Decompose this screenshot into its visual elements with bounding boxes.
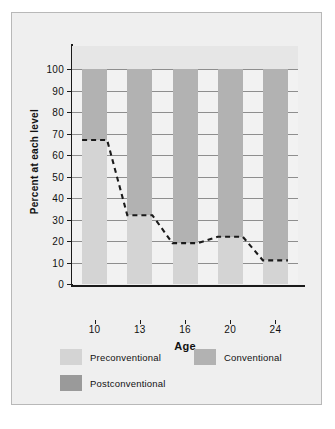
bar-segment-preconventional-age-16 <box>173 243 198 284</box>
legend-row-1: Preconventional Conventional <box>60 349 305 375</box>
x-tick-label-20: 20 <box>224 324 236 335</box>
legend-swatch-conventional <box>194 349 216 365</box>
y-tick-mark-30 <box>67 220 72 221</box>
y-tick-label-30: 30 <box>52 214 64 225</box>
legend-label-preconventional: Preconventional <box>90 352 161 363</box>
y-axis-title: Percent at each level <box>29 109 43 214</box>
bar-segment-conventional-age-10 <box>82 69 107 140</box>
bar-segment-preconventional-age-10 <box>82 140 107 284</box>
x-tick-label-16: 16 <box>179 324 191 335</box>
legend-item-preconventional: Preconventional <box>60 349 161 365</box>
chart-legend: Preconventional Conventional Postconvent… <box>60 349 305 401</box>
y-tick-mark-50 <box>67 177 72 178</box>
bar-age-16[interactable] <box>173 69 198 284</box>
y-tick-mark-90 <box>67 91 72 92</box>
plot-top-band <box>72 46 298 69</box>
bar-age-20[interactable] <box>218 69 243 284</box>
bar-segment-conventional-age-20 <box>218 69 243 237</box>
y-tick-label-10: 10 <box>52 257 64 268</box>
bar-segment-preconventional-age-13 <box>127 215 152 284</box>
y-tick-mark-60 <box>67 155 72 156</box>
x-tick-label-10: 10 <box>89 324 101 335</box>
bar-age-24[interactable] <box>263 69 288 284</box>
plot-body: 0102030405060708090100 <box>72 69 298 284</box>
y-tick-label-70: 70 <box>52 128 64 139</box>
y-tick-mark-100 <box>67 69 72 70</box>
y-tick-label-90: 90 <box>52 85 64 96</box>
legend-label-conventional: Conventional <box>224 352 282 363</box>
y-tick-label-60: 60 <box>52 150 64 161</box>
y-tick-mark-70 <box>67 134 72 135</box>
y-tick-label-80: 80 <box>52 107 64 118</box>
bar-segment-conventional-age-16 <box>173 69 198 243</box>
legend-item-postconventional: Postconventional <box>60 375 166 391</box>
y-tick-label-40: 40 <box>52 193 64 204</box>
legend-swatch-preconventional <box>60 349 82 365</box>
bar-segment-conventional-age-13 <box>127 69 152 215</box>
x-tick-label-13: 13 <box>134 324 146 335</box>
bar-segment-conventional-age-24 <box>263 69 288 260</box>
plot-area: 0102030405060708090100 1013162024 Age <box>72 46 298 307</box>
y-tick-mark-0 <box>67 284 72 285</box>
figure-frame: Percent at each level 010203040506070809… <box>11 12 322 405</box>
y-tick-mark-80 <box>67 112 72 113</box>
legend-swatch-postconventional <box>60 375 82 391</box>
bar-segment-preconventional-age-20 <box>218 237 243 284</box>
y-tick-label-0: 0 <box>58 279 64 290</box>
legend-item-conventional: Conventional <box>194 349 282 365</box>
y-tick-mark-20 <box>67 241 72 242</box>
bar-age-10[interactable] <box>82 69 107 284</box>
y-tick-mark-10 <box>67 263 72 264</box>
y-tick-mark-40 <box>67 198 72 199</box>
legend-row-2: Postconventional <box>60 375 305 401</box>
bar-age-13[interactable] <box>127 69 152 284</box>
y-tick-label-100: 100 <box>46 64 64 75</box>
bar-segment-preconventional-age-24 <box>263 260 288 284</box>
legend-label-postconventional: Postconventional <box>90 378 166 389</box>
y-tick-label-50: 50 <box>52 171 64 182</box>
x-tick-label-24: 24 <box>270 324 282 335</box>
y-tick-label-20: 20 <box>52 236 64 247</box>
